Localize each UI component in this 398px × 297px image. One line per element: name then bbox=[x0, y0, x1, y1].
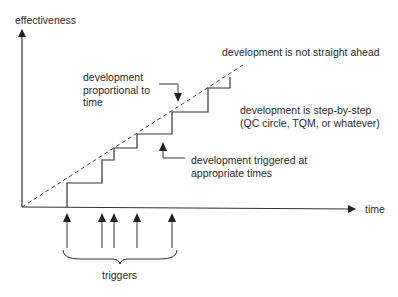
trigger-arrow-icon bbox=[133, 213, 141, 222]
trigger-arrow-icon bbox=[98, 213, 106, 222]
annotation-line: development triggered at bbox=[191, 154, 307, 167]
arrowhead-down-icon bbox=[174, 93, 182, 102]
annotation-line: development bbox=[83, 71, 150, 84]
triggers-brace bbox=[63, 250, 177, 264]
trigger-arrows bbox=[63, 213, 176, 248]
annotation-line: time bbox=[83, 96, 150, 109]
trigger-arrow-icon bbox=[110, 213, 118, 222]
not-straight-annotation: development is not straight ahead bbox=[222, 46, 380, 59]
trigger-arrow-icon bbox=[168, 213, 176, 222]
triggered-annotation: development triggered at appropriate tim… bbox=[191, 154, 307, 179]
y-axis-label: effectiveness bbox=[15, 14, 76, 27]
x-axis-label: time bbox=[365, 203, 385, 216]
step-by-step-annotation: development is step-by-step (QC circle, … bbox=[240, 104, 380, 129]
triggered-pointer-arrow bbox=[163, 150, 185, 158]
triggers-label: triggers bbox=[102, 269, 137, 282]
diagram-canvas bbox=[0, 0, 398, 297]
annotation-line: development is step-by-step bbox=[240, 104, 380, 117]
proportional-annotation: development proportional to time bbox=[83, 71, 150, 109]
arrowhead-up-icon bbox=[159, 142, 167, 151]
annotation-line: (QC circle, TQM, or whatever) bbox=[240, 117, 380, 130]
annotation-line: proportional to bbox=[83, 84, 150, 97]
annotation-line: appropriate times bbox=[191, 167, 307, 180]
x-axis bbox=[22, 207, 355, 209]
trigger-arrow-icon bbox=[63, 213, 71, 222]
proportional-pointer-arrow bbox=[159, 84, 178, 94]
